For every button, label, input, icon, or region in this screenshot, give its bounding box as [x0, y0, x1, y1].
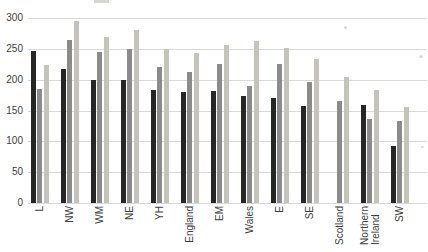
bar-light-gray	[344, 77, 349, 203]
bar-medium-gray	[277, 64, 282, 203]
bar-medium-gray	[307, 82, 312, 203]
bar-chart: 050100150200250300LNWWMNEYHEnglandEMWale…	[0, 0, 428, 252]
x-axis-category-label: SE	[304, 206, 315, 219]
bar-dark	[361, 105, 366, 203]
bar-dark	[271, 98, 276, 203]
bar-dark	[211, 91, 216, 203]
bar-medium-gray	[97, 52, 102, 203]
x-axis-category-label: NE	[124, 206, 135, 220]
x-axis-category-label: YH	[154, 206, 165, 220]
bar-light-gray	[134, 30, 139, 203]
x-axis-category-label: England	[184, 206, 195, 243]
x-axis-category-label: Northern Ireland	[359, 206, 381, 245]
bar-light-gray	[74, 21, 79, 203]
bar-medium-gray	[247, 86, 252, 203]
bar-light-gray	[194, 53, 199, 203]
bar-medium-gray	[367, 119, 372, 203]
bar-dark	[151, 90, 156, 203]
y-axis-tick-label: 200	[0, 74, 23, 86]
y-axis-tick-label: 300	[0, 12, 23, 24]
artifact-speck	[419, 55, 423, 58]
bar-light-gray	[224, 45, 229, 203]
bar-medium-gray	[187, 72, 192, 203]
bar-medium-gray	[217, 64, 222, 203]
bar-medium-gray	[37, 89, 42, 203]
bar-dark	[31, 51, 36, 203]
x-axis-category-label: WM	[94, 206, 105, 224]
bar-dark	[301, 106, 306, 203]
bar-medium-gray	[397, 121, 402, 203]
bar-light-gray	[44, 65, 49, 203]
bar-light-gray	[164, 49, 169, 203]
bar-light-gray	[104, 37, 109, 204]
y-axis-tick-label: 150	[0, 105, 23, 117]
gridline	[28, 203, 427, 204]
x-axis-category-label: Wales	[244, 206, 255, 233]
x-axis-category-label: L	[34, 206, 45, 212]
bar-light-gray	[284, 48, 289, 203]
x-axis-category-label: NW	[64, 206, 75, 223]
bar-medium-gray	[157, 67, 162, 203]
chart-screenshot: 050100150200250300LNWWMNEYHEnglandEMWale…	[0, 0, 428, 252]
x-axis-category-label: SW	[394, 206, 405, 222]
artifact-speck	[421, 146, 424, 148]
bar-medium-gray	[127, 49, 132, 203]
artifact-smudge	[94, 0, 109, 3]
x-axis-category-label: EM	[214, 206, 225, 221]
bar-light-gray	[314, 59, 319, 203]
bar-dark	[391, 146, 396, 203]
y-axis-tick-label: 50	[0, 166, 23, 178]
bar-dark	[241, 96, 246, 203]
bar-dark	[121, 80, 126, 203]
x-axis-category-label: E	[274, 206, 285, 213]
bar-medium-gray	[67, 40, 72, 203]
bar-medium-gray	[337, 101, 342, 203]
bar-dark	[91, 80, 96, 203]
y-axis-tick-label: 0	[0, 197, 23, 209]
bar-light-gray	[374, 90, 379, 203]
artifact-speck	[344, 26, 347, 29]
y-axis-tick-label: 250	[0, 43, 23, 55]
bar-dark	[61, 69, 66, 203]
bar-light-gray	[404, 107, 409, 203]
x-axis-category-label: Scotland	[334, 206, 345, 245]
bar-light-gray	[254, 41, 259, 203]
y-axis-tick-label: 100	[0, 135, 23, 147]
bar-dark	[181, 92, 186, 203]
gridline	[28, 18, 427, 19]
